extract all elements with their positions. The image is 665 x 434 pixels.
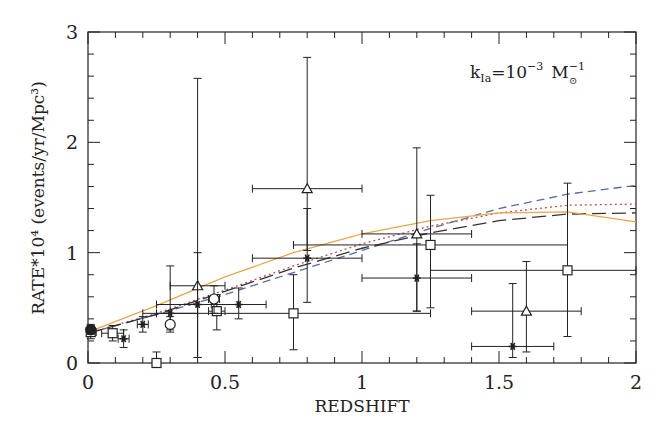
y-tick-label: 1 [66, 242, 78, 264]
y-tick-label: 3 [66, 21, 78, 43]
x-tick-label: 2 [630, 371, 642, 393]
data-point-asterisk [157, 253, 239, 358]
x-axis-title: REDSHIFT [314, 396, 410, 416]
data-point-asterisk [252, 209, 362, 303]
data-point-square [431, 183, 637, 336]
k-ia-annotation: kIa=10−3M−1⊙ [470, 60, 585, 86]
rate-vs-redshift-chart: 00.511.520123 REDSHIFT RATE*10⁴ (events/… [0, 0, 665, 434]
x-tick-label: 1 [356, 371, 368, 393]
x-tick-label: 0.5 [210, 371, 240, 393]
y-axis-title: RATE*10⁴ (events/yr/Mpc³) [28, 81, 48, 315]
x-tick-label: 1.5 [484, 371, 514, 393]
x-tick-label: 0 [82, 371, 94, 393]
data-point-asterisk [472, 284, 554, 358]
data-point-square [152, 352, 161, 368]
data-point-circle [86, 325, 96, 335]
y-tick-label: 0 [66, 352, 78, 374]
y-tick-label: 2 [66, 131, 78, 153]
data-point-asterisk [118, 330, 129, 348]
data-point-asterisk [362, 244, 472, 311]
